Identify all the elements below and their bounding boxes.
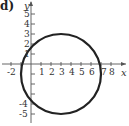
svg-text:-5: -5 (19, 109, 28, 119)
chart-figure: d) y x -2 1 2 3 4 5 6 7 8 5 4 3 2 1 -4 -… (0, 0, 129, 126)
svg-text:4: 4 (69, 67, 75, 77)
svg-text:3: 3 (24, 29, 30, 39)
part-label: d) (0, 0, 14, 13)
svg-text:2: 2 (49, 67, 55, 77)
svg-text:-2: -2 (7, 67, 16, 77)
svg-text:2: 2 (24, 39, 30, 49)
svg-text:5: 5 (79, 67, 85, 77)
x-axis-label: x (121, 67, 127, 78)
svg-text:1: 1 (39, 67, 45, 77)
chart-canvas: d) y x -2 1 2 3 4 5 6 7 8 5 4 3 2 1 -4 -… (0, 0, 129, 126)
x-tick-labels: -2 1 2 3 4 5 6 7 8 (7, 67, 115, 77)
svg-text:8: 8 (109, 67, 115, 77)
svg-text:-4: -4 (19, 99, 28, 109)
svg-text:6: 6 (89, 67, 95, 77)
svg-text:1: 1 (24, 49, 30, 59)
svg-text:5: 5 (24, 9, 30, 19)
svg-text:3: 3 (59, 67, 65, 77)
svg-text:7: 7 (101, 67, 107, 77)
svg-text:4: 4 (24, 19, 30, 29)
x-axis-arrow-icon (121, 62, 126, 66)
